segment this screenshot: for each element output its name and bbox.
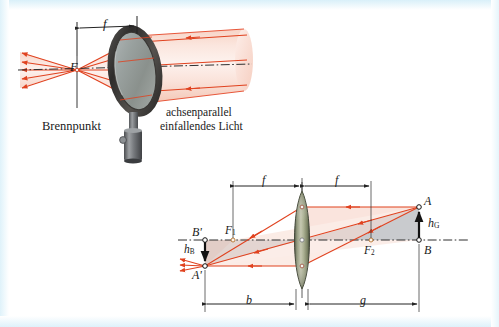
focal-point-f2-label: F2 [364, 244, 375, 257]
figure-page: f F Brennpunkt achsenparallel einfallend… [0, 0, 499, 327]
optics-illustration [0, 0, 499, 327]
object-height-label: hG [428, 216, 439, 231]
brennpunkt-label: Brennpunkt [42, 119, 101, 134]
focal-point-symbol: F [70, 60, 78, 75]
focal-f1-symbol: F [225, 224, 232, 236]
image-distance-label: b [246, 293, 252, 308]
focal-length-right-label: f [335, 173, 338, 188]
image-height-label: hB [184, 243, 195, 256]
focal-f2-symbol: F [364, 244, 371, 256]
top-panel-group [18, 16, 253, 164]
object-distance-label: g [360, 293, 366, 308]
lens-stand-icon [120, 112, 142, 164]
top-focal-length-label: f [103, 16, 107, 32]
focal-point-f2-marker [369, 238, 373, 242]
focal-f2-subscript: 2 [371, 249, 375, 257]
image-base-label: B' [192, 225, 202, 240]
focal-point-f1-marker [231, 238, 235, 242]
object-base-label: B [424, 243, 431, 258]
image-top-label: A' [192, 268, 202, 283]
beam-label-line1: achsenparallel [166, 106, 232, 118]
focal-length-left-label: f [262, 173, 265, 188]
beam-label-line2: einfallendes Licht [160, 120, 243, 132]
object-top-label: A [424, 194, 431, 209]
image-height-subscript: B [190, 248, 195, 256]
focal-f1-subscript: 1 [232, 229, 236, 237]
object-height-subscript: G [434, 221, 439, 230]
focal-point-f1-label: F1 [225, 224, 236, 237]
